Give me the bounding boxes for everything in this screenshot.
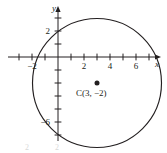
figure-container: y x −2 2 4 6 2 −6 C(3, −2) 2 2 — [0, 0, 167, 153]
y-tick-label-2: 2 — [36, 27, 50, 36]
center-point-label: C(3, −2) — [76, 89, 107, 98]
page-edge-artifact: 2 2 — [0, 140, 167, 153]
x-tick-label-4: 4 — [102, 62, 118, 71]
center-point-marker — [95, 81, 100, 86]
x-axis-label: x — [155, 60, 159, 69]
x-axis — [8, 54, 161, 61]
y-axis — [55, 6, 62, 141]
y-axis-label: y — [52, 4, 56, 13]
coordinate-plane-svg — [0, 0, 167, 153]
x-tick-label-6: 6 — [128, 62, 144, 71]
x-tick-label-2: 2 — [76, 62, 92, 71]
x-tick-label-neg2: −2 — [24, 62, 40, 71]
y-tick-label-neg6: −6 — [32, 118, 50, 127]
